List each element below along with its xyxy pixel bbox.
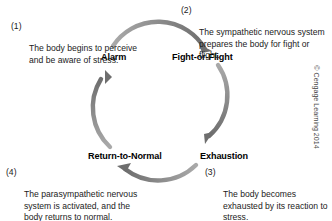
stage-text-2: The sympathetic nervous system prepares … (181, 27, 327, 61)
stage-text-1: The body begins to perceive and be aware… (11, 43, 139, 65)
stress-cycle-diagram: Alarm Fight-or-Flight Exhaustion Return-… (0, 0, 332, 221)
arc-return-to-alarm (93, 70, 112, 147)
stage-label-exhaustion: Exhaustion (200, 151, 248, 161)
stage-text-3: The body becomes exhausted by its reacti… (205, 189, 329, 221)
stage-description-exhaustion: (3) The body becomes exhausted by its re… (205, 167, 329, 221)
stage-number-2: (2) (181, 5, 192, 16)
stage-label-return-to-normal: Return-to-Normal (88, 151, 162, 161)
stage-description-return-to-normal: (4) The parasympathetic nervous system i… (6, 167, 142, 221)
stage-number-3: (3) (205, 167, 216, 178)
arrowhead-icon (204, 132, 213, 144)
stage-number-1: (1) (11, 21, 22, 32)
stage-description-alarm: (1) The body begins to perceive and be a… (11, 21, 139, 77)
stage-number-4: (4) (6, 167, 17, 178)
copyright-notice: © Cengage Learning 2014 (312, 55, 320, 159)
stage-text-4: The parasympathetic nervous system is ac… (6, 189, 142, 221)
stage-description-fight-or-flight: (2) The sympathetic nervous system prepa… (181, 5, 327, 72)
arc-fight-to-exhaustion (204, 65, 227, 144)
